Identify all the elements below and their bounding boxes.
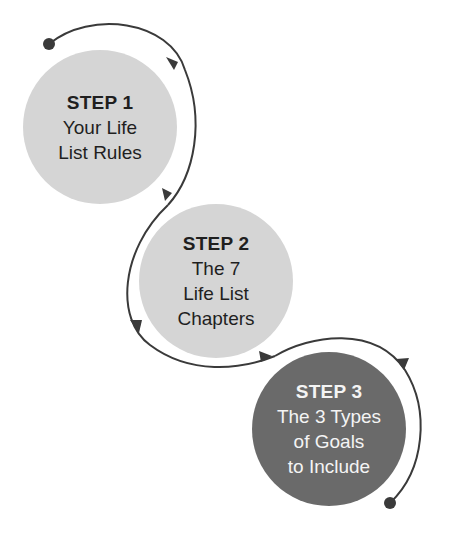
step-2-circle: STEP 2 The 7 Life List Chapters	[139, 204, 293, 358]
step-2-line-3: Chapters	[177, 306, 254, 331]
step-2-line-1: The 7	[192, 256, 241, 281]
step-3-title: STEP 3	[296, 379, 362, 404]
step-3-line-2: of Goals	[294, 429, 365, 454]
step-3-line-1: The 3 Types	[277, 404, 381, 429]
start-dot-icon	[43, 38, 55, 50]
step-1-circle: STEP 1 Your Life List Rules	[23, 50, 177, 204]
arrow-icon	[396, 358, 409, 370]
step-1-line-1: Your Life	[63, 115, 137, 140]
step-1-title: STEP 1	[67, 90, 133, 115]
step-2-title: STEP 2	[183, 231, 249, 256]
end-dot-icon	[384, 497, 396, 509]
arrow-icon	[162, 188, 172, 201]
step-1-line-2: List Rules	[58, 140, 141, 165]
step-3-line-3: to Include	[288, 454, 370, 479]
step-2-line-2: Life List	[183, 281, 248, 306]
step-3-circle: STEP 3 The 3 Types of Goals to Include	[252, 352, 406, 506]
arrow-icon	[166, 57, 178, 70]
